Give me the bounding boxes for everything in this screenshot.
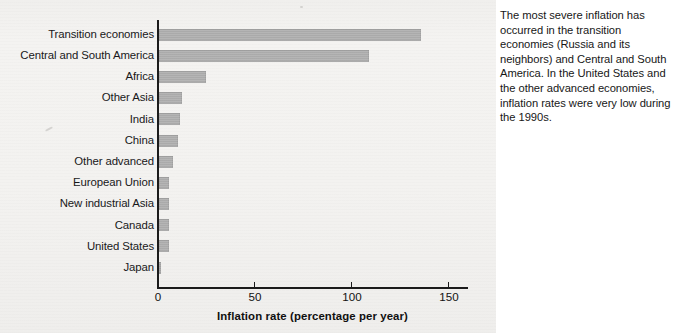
bar-track bbox=[159, 109, 490, 130]
x-tick-label-100: 100 bbox=[342, 291, 361, 303]
bar-canada bbox=[159, 219, 169, 231]
table-row: Japan bbox=[0, 257, 496, 278]
table-row: New industrial Asia bbox=[0, 194, 496, 215]
category-label: United States bbox=[9, 241, 154, 252]
bar-new-industrial-asia bbox=[159, 198, 169, 210]
bar-track bbox=[159, 257, 490, 278]
bar-united-states bbox=[159, 240, 169, 252]
inflation-rate-figure: Transition economies Central and South A… bbox=[0, 0, 677, 333]
category-label: Canada bbox=[9, 220, 154, 231]
table-row: European Union bbox=[0, 172, 496, 193]
bar-track bbox=[159, 130, 490, 151]
x-tick-label-50: 50 bbox=[249, 291, 262, 303]
bar-track bbox=[159, 172, 490, 193]
bar-transition-economies bbox=[159, 29, 421, 41]
y-axis-line bbox=[157, 20, 159, 288]
bar-track bbox=[159, 151, 490, 172]
category-label: Other Asia bbox=[9, 92, 154, 103]
bar-track bbox=[159, 66, 490, 87]
bar-track bbox=[159, 194, 490, 215]
x-axis-line bbox=[157, 287, 468, 289]
bar-india bbox=[159, 113, 180, 125]
bar-other-advanced bbox=[159, 156, 173, 168]
category-label: European Union bbox=[9, 177, 154, 188]
bar-track bbox=[159, 24, 490, 45]
table-row: Other Asia bbox=[0, 88, 496, 109]
table-row: United States bbox=[0, 236, 496, 257]
bar-other-asia bbox=[159, 92, 182, 104]
x-axis-title: Inflation rate (percentage per year) bbox=[157, 310, 468, 322]
table-row: Central and South America bbox=[0, 45, 496, 66]
bar-chart: Transition economies Central and South A… bbox=[0, 0, 496, 333]
bar-track bbox=[159, 215, 490, 236]
x-tick-0 bbox=[157, 282, 158, 288]
bar-japan bbox=[159, 262, 161, 274]
bar-china bbox=[159, 135, 178, 147]
bar-track bbox=[159, 88, 490, 109]
category-label: Japan bbox=[9, 262, 154, 273]
x-tick-label-150: 150 bbox=[439, 291, 458, 303]
x-tick-50 bbox=[254, 282, 255, 288]
bar-track bbox=[159, 45, 490, 66]
table-row: Transition economies bbox=[0, 24, 496, 45]
figure-caption: The most severe inflation has occurred i… bbox=[500, 8, 672, 125]
x-tick-100 bbox=[351, 282, 352, 288]
bar-track bbox=[159, 236, 490, 257]
bar-central-and-south-america bbox=[159, 50, 369, 62]
category-label: Transition economies bbox=[9, 29, 154, 40]
table-row: India bbox=[0, 109, 496, 130]
bar-africa bbox=[159, 71, 206, 83]
category-label: New industrial Asia bbox=[9, 198, 154, 209]
category-label: China bbox=[9, 135, 154, 146]
bar-european-union bbox=[159, 177, 169, 189]
category-label: Africa bbox=[9, 71, 154, 82]
x-tick-label-0: 0 bbox=[155, 291, 161, 303]
chart-rows: Transition economies Central and South A… bbox=[0, 24, 496, 278]
category-label: India bbox=[9, 114, 154, 125]
category-label: Other advanced bbox=[9, 156, 154, 167]
table-row: Other advanced bbox=[0, 151, 496, 172]
category-label: Central and South America bbox=[9, 50, 154, 61]
table-row: Africa bbox=[0, 66, 496, 87]
table-row: Canada bbox=[0, 215, 496, 236]
table-row: China bbox=[0, 130, 496, 151]
x-tick-150 bbox=[448, 282, 449, 288]
